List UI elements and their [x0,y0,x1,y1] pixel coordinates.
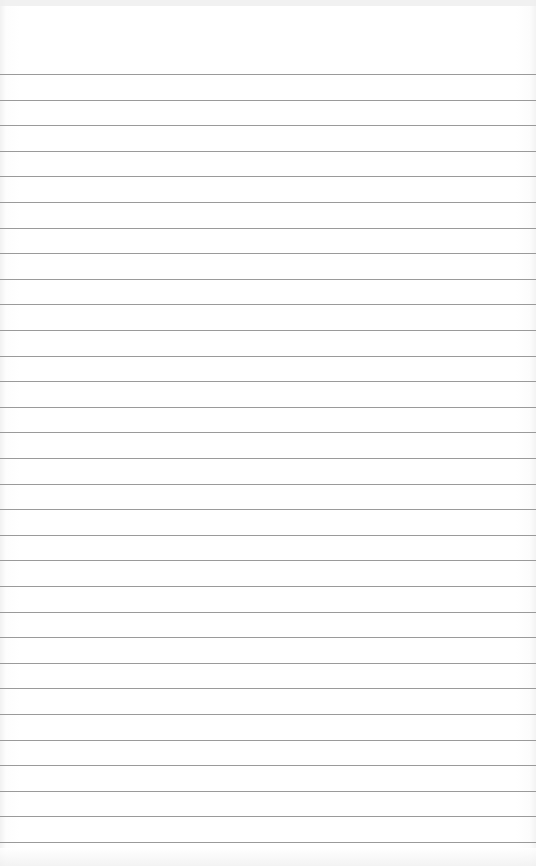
ruled-line [0,330,536,331]
ruled-line [0,663,536,664]
ruled-line [0,74,536,75]
ruled-line [0,125,536,126]
ruled-line [0,612,536,613]
ruled-line [0,484,536,485]
ruled-line [0,842,536,843]
ruled-line [0,560,536,561]
ruled-line [0,279,536,280]
paper-top-edge [0,0,536,6]
ruled-line [0,688,536,689]
ruled-line [0,304,536,305]
lined-paper-sheet [0,0,536,866]
ruled-line [0,151,536,152]
ruled-line [0,381,536,382]
ruled-line [0,765,536,766]
ruled-line [0,432,536,433]
ruled-line [0,458,536,459]
ruled-line [0,535,536,536]
ruled-line [0,816,536,817]
ruled-line [0,586,536,587]
ruled-line [0,356,536,357]
ruled-line [0,740,536,741]
ruled-line [0,202,536,203]
ruled-line [0,714,536,715]
ruled-line [0,509,536,510]
ruled-line [0,253,536,254]
ruled-line [0,791,536,792]
paper-bottom-edge [0,848,536,866]
ruled-line [0,407,536,408]
ruled-line [0,637,536,638]
ruled-line [0,228,536,229]
ruled-line [0,176,536,177]
ruled-line [0,100,536,101]
